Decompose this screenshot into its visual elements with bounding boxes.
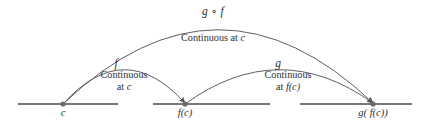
point-label-gfc: g( f(c)) bbox=[358, 107, 387, 119]
arc-composite-caption-variable: c bbox=[240, 32, 245, 43]
point-label-c: c bbox=[61, 107, 66, 119]
arc-f-caption-variable: c bbox=[127, 81, 132, 92]
point-label-fc: f(c) bbox=[178, 107, 193, 119]
arc-g-name-label: g bbox=[275, 57, 281, 70]
arc-composite-caption-text: Continuous at c bbox=[181, 32, 245, 43]
arc-f-caption-line2: at c bbox=[101, 81, 148, 93]
arc-g-caption: Continuous at f(c) bbox=[265, 69, 312, 94]
arc-f-caption: Continuous at c bbox=[101, 69, 148, 94]
point-c bbox=[60, 101, 65, 106]
composite-continuity-diagram: g ∘ f Continuous at c f Continuous at c … bbox=[0, 0, 426, 123]
arc-g-caption-line1: Continuous bbox=[265, 69, 312, 81]
arc-g-caption-line2: at f(c) bbox=[265, 81, 312, 93]
diagram-canvas bbox=[0, 0, 426, 123]
arc-f-name-label: f bbox=[114, 57, 117, 70]
point-gfc bbox=[370, 101, 375, 106]
point-fc bbox=[182, 101, 187, 106]
arc-f-caption-line1: Continuous bbox=[101, 69, 148, 81]
arc-composite-name-label: g ∘ f bbox=[202, 5, 224, 18]
arc-composite-caption: Continuous at c bbox=[181, 32, 245, 43]
arc-g-caption-variable: f(c) bbox=[286, 81, 300, 92]
